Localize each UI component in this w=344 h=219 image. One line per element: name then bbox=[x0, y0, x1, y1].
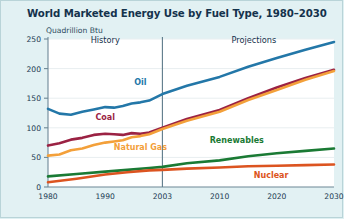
y-tick-label-250: 250 bbox=[27, 35, 42, 44]
y-tick-label-200: 200 bbox=[27, 65, 42, 74]
series-label-renewables: Renewables bbox=[210, 136, 264, 145]
series-label-oil: Oil bbox=[134, 78, 147, 87]
y-tick-label-50: 50 bbox=[31, 153, 41, 162]
annotation-history: History bbox=[91, 35, 120, 45]
y-tick-label-100: 100 bbox=[27, 124, 42, 133]
x-tick-label-2020: 2020 bbox=[267, 192, 286, 201]
x-tick-label-2003: 2003 bbox=[153, 192, 172, 201]
x-tick-label-1980: 1980 bbox=[38, 192, 57, 201]
x-tick-label-1990: 1990 bbox=[96, 192, 115, 201]
y-tick-label-150: 150 bbox=[27, 94, 42, 103]
line-chart-plot: 050100150200250 198019902003201020202030… bbox=[1, 1, 344, 219]
series-label-nuclear: Nuclear bbox=[254, 171, 289, 180]
x-tick-label-2010: 2010 bbox=[210, 192, 229, 201]
y-axis-tick-labels: 050100150200250 bbox=[27, 35, 42, 192]
x-tick-label-2030: 2030 bbox=[324, 192, 343, 201]
series-label-natural-gas: Natural Gas bbox=[114, 143, 167, 152]
y-tick-label-0: 0 bbox=[36, 183, 41, 192]
series-label-coal: Coal bbox=[95, 113, 115, 122]
annotation-projections: Projections bbox=[232, 35, 277, 45]
x-axis-tick-labels: 198019902003201020202030 bbox=[38, 192, 343, 201]
